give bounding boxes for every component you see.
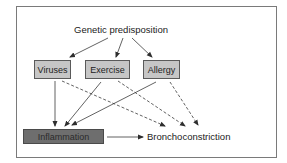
edge-exercise-bronchoconstriction [118,81,185,126]
node-inflammation: Inflammation [23,129,104,144]
node-genetic-predisposition: Genetic predisposition [74,25,168,35]
node-allergy: Allergy [143,60,180,79]
node-viruses: Viruses [34,60,71,79]
node-bronchoconstriction: Bronchoconstriction [147,132,230,142]
edge-genetic-allergy [132,38,152,57]
edge-genetic-viruses [70,38,108,57]
edge-viruses-bronchoconstriction [62,81,165,126]
edge-genetic-exercise [116,38,123,57]
node-exercise: Exercise [85,60,130,79]
